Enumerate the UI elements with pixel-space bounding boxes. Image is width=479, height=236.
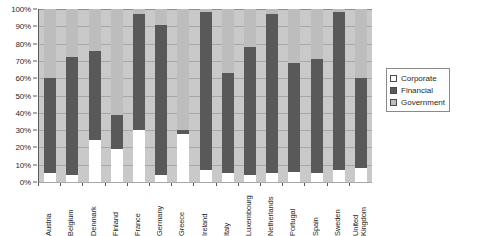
bar-segment-government	[311, 9, 323, 59]
plot-area	[38, 9, 372, 183]
bar-slot	[194, 9, 216, 182]
x-axis-tick-label: Portugal	[289, 187, 297, 236]
bar-segment-financial	[333, 12, 345, 169]
bar-segment-government	[244, 9, 256, 47]
x-axis-tick-label: Spain	[312, 187, 320, 236]
x-axis-tick-mark	[38, 183, 39, 186]
bar-slot	[350, 9, 372, 182]
y-axis-tick-label: 40%	[16, 108, 31, 117]
y-axis-tick-label: 0%	[20, 178, 31, 187]
bar-segment-government	[222, 9, 234, 73]
x-axis-label-slot: Ireland	[193, 184, 215, 236]
bar-segment-government	[155, 9, 167, 25]
bar-segment-corporate	[133, 130, 145, 182]
x-axis-tick-label: Sweden	[334, 187, 342, 236]
stacked-bar[interactable]	[155, 9, 167, 182]
bar-segment-financial	[111, 115, 123, 150]
bar-slot	[328, 9, 350, 182]
x-axis-tick-mark	[82, 183, 83, 186]
stacked-bar[interactable]	[222, 9, 234, 182]
x-axis: AustriaBelgiumDenmarkFinlandFranceGerman…	[38, 184, 371, 236]
y-axis-tick-label: 60%	[16, 74, 31, 83]
x-axis-tick-mark	[193, 183, 194, 186]
legend-swatch-icon	[390, 75, 397, 82]
x-axis-label-slot: Greece	[171, 184, 193, 236]
stacked-bar[interactable]	[89, 9, 101, 182]
bar-slot	[239, 9, 261, 182]
bar-segment-financial	[266, 14, 278, 173]
x-axis-tick-label: Finland	[112, 187, 120, 236]
x-axis-tick-mark	[282, 183, 283, 186]
bar-slot	[128, 9, 150, 182]
y-axis-tick-mark	[33, 43, 37, 44]
bar-segment-corporate	[311, 173, 323, 182]
bar-segment-financial	[155, 25, 167, 176]
stacked-bar-chart: 100%90%80%70%60%50%40%30%20%10%0% Austri…	[0, 0, 479, 236]
stacked-bar[interactable]	[288, 9, 300, 182]
bar-segment-corporate	[333, 170, 345, 182]
stacked-bar[interactable]	[266, 9, 278, 182]
bar-slot	[172, 9, 194, 182]
x-axis-label-slot: Finland	[105, 184, 127, 236]
gridline	[39, 182, 372, 183]
bar-slot	[106, 9, 128, 182]
bar-segment-financial	[44, 78, 56, 173]
x-axis-label-slot: France	[127, 184, 149, 236]
stacked-bar[interactable]	[133, 9, 145, 182]
y-axis-tick-mark	[33, 78, 37, 79]
legend-item[interactable]: Corporate	[390, 72, 445, 84]
bar-segment-financial	[288, 63, 300, 172]
x-axis-tick-label: Luxembourg	[245, 187, 253, 236]
x-axis-label-slot: Austria	[38, 184, 60, 236]
x-axis-tick-label: Greece	[178, 187, 186, 236]
y-axis-tick-mark	[33, 130, 37, 131]
bar-segment-corporate	[200, 170, 212, 182]
legend-label: Corporate	[401, 74, 437, 83]
bar-segment-financial	[89, 51, 101, 141]
x-axis-tick-label: United Kingdom	[352, 187, 368, 236]
stacked-bar[interactable]	[200, 9, 212, 182]
x-axis-tick-mark	[60, 183, 61, 186]
bar-segment-government	[177, 9, 189, 130]
legend-label: Financial	[401, 86, 433, 95]
x-axis-label-slot: Spain	[304, 184, 326, 236]
stacked-bar[interactable]	[44, 9, 56, 182]
stacked-bar[interactable]	[311, 9, 323, 182]
x-axis-tick-label: Netherlands	[267, 187, 275, 236]
x-axis-tick-mark	[171, 183, 172, 186]
bar-segment-financial	[311, 59, 323, 173]
x-axis-tick-label: France	[134, 187, 142, 236]
bar-segment-financial	[222, 73, 234, 173]
y-axis-tick-mark	[33, 182, 37, 183]
x-axis-label-slot: Italy	[216, 184, 238, 236]
stacked-bar[interactable]	[177, 9, 189, 182]
bar-segment-corporate	[288, 172, 300, 182]
legend-item[interactable]: Government	[390, 96, 445, 108]
x-axis-label-slot: Portugal	[282, 184, 304, 236]
y-axis-tick-mark	[33, 147, 37, 148]
stacked-bar[interactable]	[66, 9, 78, 182]
bar-segment-financial	[133, 14, 145, 130]
legend-swatch-icon	[390, 99, 397, 106]
bar-segment-corporate	[44, 173, 56, 182]
bar-segment-financial	[200, 12, 212, 169]
stacked-bar[interactable]	[355, 9, 367, 182]
x-axis-tick-mark	[327, 183, 328, 186]
y-axis-tick-label: 80%	[16, 39, 31, 48]
x-axis-label-slot: Luxembourg	[238, 184, 260, 236]
x-axis-label-slot: Belgium	[60, 184, 82, 236]
stacked-bar[interactable]	[333, 9, 345, 182]
bar-segment-government	[89, 9, 101, 51]
stacked-bar[interactable]	[111, 9, 123, 182]
y-axis-tick-label: 90%	[16, 22, 31, 31]
y-axis-tick-mark	[33, 112, 37, 113]
legend-item[interactable]: Financial	[390, 84, 445, 96]
x-axis-label-slot: Sweden	[327, 184, 349, 236]
y-axis-tick-mark	[33, 26, 37, 27]
stacked-bar[interactable]	[244, 9, 256, 182]
bar-segment-corporate	[355, 168, 367, 182]
bar-slot	[150, 9, 172, 182]
bar-slot	[39, 9, 61, 182]
bar-slot	[283, 9, 305, 182]
bar-segment-financial	[355, 78, 367, 168]
